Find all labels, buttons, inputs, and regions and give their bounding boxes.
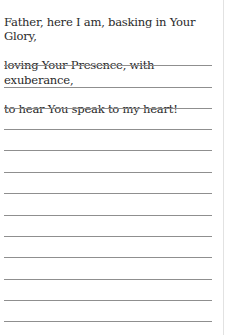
writing-line[interactable]	[4, 257, 212, 258]
writing-line[interactable]	[4, 65, 212, 66]
writing-line[interactable]	[4, 300, 212, 301]
writing-line[interactable]	[4, 215, 212, 216]
writing-line[interactable]	[4, 129, 212, 130]
prompt-line-1: Father, here I am, basking in Your Glory…	[4, 15, 195, 44]
page-edge-divider	[223, 0, 224, 335]
writing-line[interactable]	[4, 321, 212, 322]
prompt-line-2: loving Your Presence, with exuberance,	[4, 58, 154, 87]
writing-line[interactable]	[4, 150, 212, 151]
prompt-line-3: to hear You speak to my heart!	[4, 102, 178, 116]
journal-page: Father, here I am, basking in Your Glory…	[0, 0, 230, 335]
writing-line[interactable]	[4, 279, 212, 280]
prayer-prompt: Father, here I am, basking in Your Glory…	[4, 0, 224, 117]
writing-line[interactable]	[4, 172, 212, 173]
writing-line[interactable]	[4, 87, 212, 88]
writing-line[interactable]	[4, 236, 212, 237]
writing-line[interactable]	[4, 108, 212, 109]
writing-line[interactable]	[4, 193, 212, 194]
